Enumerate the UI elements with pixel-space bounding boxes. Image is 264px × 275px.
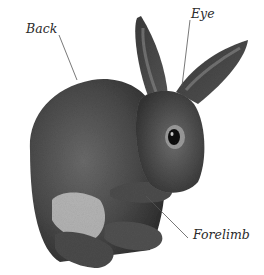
eye-icon [168, 129, 180, 145]
back-leader-line [59, 35, 77, 80]
rabbit-head [136, 91, 204, 193]
rabbit-ears [135, 16, 248, 104]
rabbit-labeled-photo: Back Eye Forelimb [0, 0, 264, 275]
label-back: Back [26, 23, 57, 36]
label-forelimb: Forelimb [193, 229, 250, 242]
label-eye: Eye [191, 8, 215, 21]
